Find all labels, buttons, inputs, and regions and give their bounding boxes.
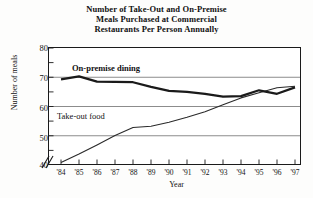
annotation-on-premise-dining: On-premise dining bbox=[72, 63, 140, 73]
annotation-take-out-food: Take-out food bbox=[57, 111, 105, 121]
plot-area bbox=[0, 0, 313, 198]
chart-figure: Number of Take-Out and On-Premise Meals … bbox=[0, 0, 313, 198]
